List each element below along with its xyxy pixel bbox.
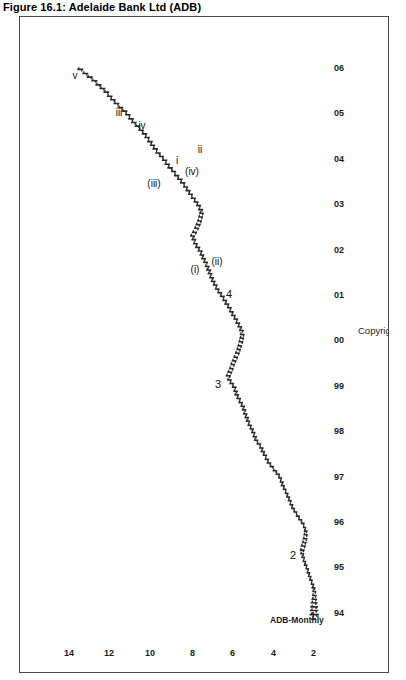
wave-label-ii: ii xyxy=(198,143,202,154)
x-axis-tick-label: 96 xyxy=(327,516,351,526)
x-axis-tick-label: 04 xyxy=(327,153,351,163)
wave-label-4: 4 xyxy=(226,287,232,299)
copyright-notice: Copyright 2005 THE CHARTIST www.reefcap.… xyxy=(358,324,389,335)
y-axis-tick-label: 8 xyxy=(171,647,195,657)
y-axis-tick-label: 2 xyxy=(292,647,316,657)
wave-label-i: (i) xyxy=(191,264,200,275)
x-axis-tick-label: 02 xyxy=(327,244,351,254)
y-axis-tick-label: 12 xyxy=(90,647,114,657)
wave-label-i: i xyxy=(176,155,178,166)
price-bars xyxy=(42,58,328,630)
wave-label-iv: iv xyxy=(138,120,145,131)
x-axis-tick-label: 97 xyxy=(327,471,351,481)
x-axis-tick-label: 06 xyxy=(327,62,351,72)
x-axis-tick-label: 95 xyxy=(327,561,351,571)
x-axis-tick-label: 05 xyxy=(327,107,351,117)
y-axis-tick-label: 14 xyxy=(50,647,74,657)
wave-label-iii: iii xyxy=(115,107,122,118)
x-axis-tick-label: 01 xyxy=(327,289,351,299)
wave-label-v: v xyxy=(73,70,78,81)
plot-area: 1412108642 94959697989900010203040506 12… xyxy=(42,58,328,630)
x-axis-tick-label: 94 xyxy=(327,607,351,617)
chart-plate: ADB-Monthly Copyright 2005 THE CHARTIST … xyxy=(19,16,389,673)
wave-label-iv: (iv) xyxy=(185,165,199,176)
wave-label-ii: (ii) xyxy=(212,256,223,267)
x-axis-tick-label: 98 xyxy=(327,425,351,435)
page-title: Figure 16.1: Adelaide Bank Ltd (ADB) xyxy=(3,1,201,13)
rotated-chart-stage: ADB-Monthly Copyright 2005 THE CHARTIST … xyxy=(20,17,388,672)
wave-label-1: 1 xyxy=(310,609,316,621)
x-axis-tick-label: 03 xyxy=(327,198,351,208)
y-axis-tick-label: 4 xyxy=(252,647,276,657)
wave-label-iii: (iii) xyxy=(147,177,160,188)
wave-label-3: 3 xyxy=(215,377,221,389)
x-axis-tick-label: 00 xyxy=(327,334,351,344)
y-axis-tick-label: 10 xyxy=(131,647,155,657)
x-axis-tick-label: 99 xyxy=(327,380,351,390)
wave-label-2: 2 xyxy=(290,548,296,560)
y-axis-tick-label: 6 xyxy=(211,647,235,657)
